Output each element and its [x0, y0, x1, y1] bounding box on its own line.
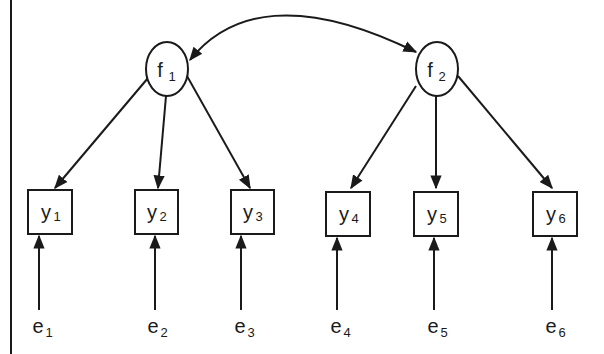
- loading-arrow-f1-y3: [187, 76, 250, 188]
- loading-arrow-f2-y4: [351, 86, 416, 188]
- svg-text:2: 2: [160, 325, 167, 340]
- svg-text:1: 1: [45, 325, 52, 340]
- factor-label-f1: f: [157, 59, 163, 81]
- indicator-label-y3: y: [243, 201, 253, 223]
- loadings-f2: [351, 76, 552, 188]
- indicator-subscript-y2: 2: [159, 209, 166, 224]
- loading-arrow-f2-y6: [458, 76, 552, 188]
- latent-factor-f2: f 2: [416, 42, 458, 96]
- indicator-y4: y 4: [326, 192, 370, 236]
- indicator-subscript-y6: 6: [558, 211, 565, 226]
- svg-text:e: e: [234, 315, 245, 337]
- svg-text:e: e: [427, 315, 438, 337]
- svg-text:4: 4: [343, 325, 350, 340]
- factor-subscript-f1: 1: [168, 69, 175, 84]
- svg-text:e: e: [330, 315, 341, 337]
- cfa-path-diagram: f 1 f 2 y 1 y 2 y 3 y 4 y 5 y 6: [0, 0, 604, 354]
- svg-text:e: e: [147, 315, 158, 337]
- indicator-label-y4: y: [339, 203, 349, 225]
- indicator-label-y1: y: [41, 201, 51, 223]
- loadings-f1: [55, 76, 250, 188]
- indicator-y3: y 3: [231, 190, 274, 234]
- indicator-subscript-y1: 1: [53, 209, 60, 224]
- covariance-arrow: [190, 15, 416, 60]
- loading-arrow-f1-y1: [55, 78, 148, 188]
- indicator-label-y5: y: [427, 203, 437, 225]
- indicator-y6: y 6: [533, 192, 577, 236]
- loading-arrow-f1-y2: [158, 96, 166, 188]
- error-label-e2: e 2: [147, 315, 167, 340]
- error-label-e3: e 3: [234, 315, 254, 340]
- indicator-subscript-y4: 4: [351, 211, 358, 226]
- indicator-label-y6: y: [546, 203, 556, 225]
- svg-text:6: 6: [558, 325, 565, 340]
- error-label-e4: e 4: [330, 315, 350, 340]
- error-arrows: [39, 236, 552, 310]
- svg-text:5: 5: [440, 325, 447, 340]
- indicator-subscript-y5: 5: [439, 211, 446, 226]
- indicator-y2: y 2: [135, 190, 178, 234]
- indicator-y1: y 1: [28, 190, 72, 234]
- svg-text:e: e: [545, 315, 556, 337]
- factor-subscript-f2: 2: [438, 69, 445, 84]
- error-label-e6: e 6: [545, 315, 565, 340]
- error-label-e1: e 1: [32, 315, 52, 340]
- latent-factor-f1: f 1: [146, 42, 188, 96]
- indicator-subscript-y3: 3: [255, 209, 262, 224]
- factor-label-f2: f: [427, 59, 433, 81]
- svg-text:3: 3: [247, 325, 254, 340]
- error-label-e5: e 5: [427, 315, 447, 340]
- indicator-y5: y 5: [414, 192, 458, 236]
- svg-text:e: e: [32, 315, 43, 337]
- indicator-label-y2: y: [147, 201, 157, 223]
